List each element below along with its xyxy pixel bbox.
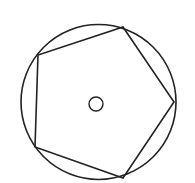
inscribed-pentagon: [35, 27, 174, 178]
center-circle: [89, 97, 103, 111]
diagram-canvas: [0, 0, 195, 183]
outer-circle: [21, 25, 176, 180]
